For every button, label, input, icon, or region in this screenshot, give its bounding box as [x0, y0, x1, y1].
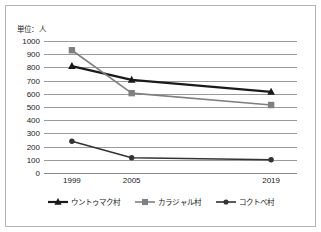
legend-item: カラジャル村	[134, 196, 201, 207]
legend-swatch-square-icon	[134, 197, 156, 207]
series-line	[72, 141, 271, 159]
y-axis-tick-labels: 01002003004005006007008009001000	[0, 41, 40, 173]
y-tick-label: 600	[2, 89, 40, 98]
y-tick-label: 700	[2, 76, 40, 85]
plot-area	[44, 41, 297, 173]
y-tick-label: 100	[2, 155, 40, 164]
data-point-marker	[69, 47, 75, 53]
line-chart-figure: 単位：人 01002003004005006007008009001000 19…	[0, 0, 321, 232]
legend-item: コクトベ村	[215, 196, 275, 207]
data-point-marker	[268, 102, 274, 108]
series-square	[69, 47, 275, 108]
data-point-marker	[68, 62, 76, 69]
series-layer	[44, 41, 297, 173]
legend-item: ウントゥマク村	[47, 196, 121, 207]
series-triangle	[68, 62, 275, 95]
x-tick-label: 1999	[63, 176, 81, 185]
data-point-marker	[129, 155, 134, 160]
chart-legend: ウントゥマク村カラジャル村コクトベ村	[5, 196, 316, 207]
y-tick-label: 400	[2, 116, 40, 125]
legend-swatch-triangle-icon	[47, 197, 69, 207]
series-line	[72, 66, 271, 92]
legend-label: コクトベ村	[239, 196, 275, 207]
series-circle	[69, 139, 274, 163]
x-tick-label: 2005	[123, 176, 141, 185]
data-point-marker	[128, 90, 134, 96]
data-point-marker	[69, 139, 74, 144]
x-tick-label: 2019	[262, 176, 280, 185]
y-tick-label: 300	[2, 129, 40, 138]
series-line	[72, 50, 271, 105]
legend-swatch-circle-icon	[215, 197, 237, 207]
y-tick-label: 500	[2, 103, 40, 112]
y-tick-label: 0	[2, 169, 40, 178]
legend-label: ウントゥマク村	[71, 196, 121, 207]
legend-label: カラジャル村	[158, 196, 201, 207]
y-tick-label: 900	[2, 50, 40, 59]
data-point-marker	[268, 157, 273, 162]
y-tick-label: 1000	[2, 37, 40, 46]
y-tick-label: 200	[2, 142, 40, 151]
x-axis-tick-labels: 199920052019	[44, 176, 297, 190]
y-tick-label: 800	[2, 63, 40, 72]
gridline-0	[44, 173, 297, 174]
unit-annotation: 単位：人	[17, 23, 46, 34]
